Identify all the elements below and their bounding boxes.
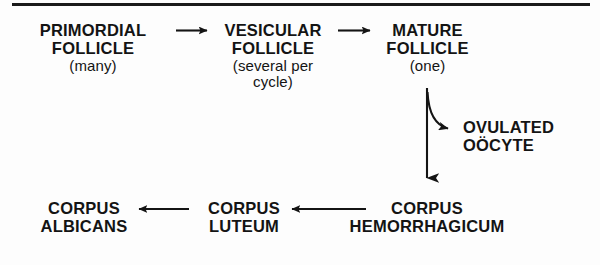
node-corpus-luteum-line2: LUTEUM [199, 218, 289, 236]
node-primordial-follicle-qualifier: (many) [18, 58, 168, 74]
node-ovulated-oocyte-line2: OÖCYTE [463, 137, 593, 155]
top-horizontal-rule [12, 3, 590, 6]
node-vesicular-follicle-line2: FOLLICLE [214, 40, 332, 58]
node-primordial-follicle-line1: PRIMORDIAL [18, 22, 168, 40]
node-mature-follicle-qualifier: (one) [378, 58, 477, 74]
follicle-cycle-diagram: PRIMORDIAL FOLLICLE (many) VESICULAR FOL… [0, 0, 600, 265]
node-corpus-luteum: CORPUS LUTEUM [199, 200, 289, 235]
node-corpus-hemorrhagicum: CORPUS HEMORRHAGICUM [341, 200, 513, 235]
node-ovulated-oocyte-line1: OVULATED [463, 119, 593, 137]
node-corpus-albicans-line1: CORPUS [32, 200, 136, 218]
node-primordial-follicle: PRIMORDIAL FOLLICLE (many) [18, 22, 168, 74]
node-mature-follicle-line1: MATURE [378, 22, 477, 40]
node-corpus-hemorrhagicum-line2: HEMORRHAGICUM [341, 218, 513, 236]
node-mature-follicle-line2: FOLLICLE [378, 40, 477, 58]
node-vesicular-follicle-line1: VESICULAR [214, 22, 332, 40]
node-corpus-albicans-line2: ALBICANS [32, 218, 136, 236]
arrow-mature-to-ovulated-oocyte [428, 92, 449, 129]
node-vesicular-follicle-qualifier: (several per [214, 58, 332, 74]
node-mature-follicle: MATURE FOLLICLE (one) [378, 22, 477, 74]
node-corpus-luteum-line1: CORPUS [199, 200, 289, 218]
node-vesicular-follicle: VESICULAR FOLLICLE (several per cycle) [214, 22, 332, 90]
node-primordial-follicle-line2: FOLLICLE [18, 40, 168, 58]
node-vesicular-follicle-qualifier-cont: cycle) [214, 74, 332, 90]
node-corpus-hemorrhagicum-line1: CORPUS [341, 200, 513, 218]
node-ovulated-oocyte: OVULATED OÖCYTE [463, 119, 593, 154]
node-corpus-albicans: CORPUS ALBICANS [32, 200, 136, 235]
